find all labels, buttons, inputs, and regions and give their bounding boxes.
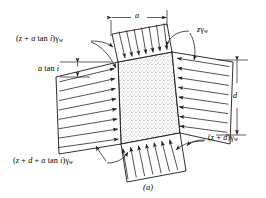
tl-w: w xyxy=(59,37,63,43)
soil-element xyxy=(118,52,180,144)
label-dimension-a-tan-i: a tan i xyxy=(38,64,59,73)
label-top-left-pressure: (z + a tan i)γw xyxy=(16,34,63,43)
left-pressure-band xyxy=(56,62,121,154)
leader-bottom-left-b xyxy=(96,146,106,161)
figure-container: (z + a tan i)γw zγw (z + d + a tan i)γw … xyxy=(0,0,266,198)
label-dimension-d: d xyxy=(233,91,237,100)
pressure-diagram-svg xyxy=(0,0,266,198)
br-plus: + xyxy=(214,133,223,142)
tl-tan: tan xyxy=(35,34,50,43)
atan-tan: tan xyxy=(42,64,57,73)
leader-top-left-a xyxy=(91,41,113,47)
label-dimension-a: a xyxy=(135,11,139,20)
bl-plus2: + xyxy=(32,156,41,165)
label-top-right-pressure: zγw xyxy=(197,25,208,34)
right-pressure-band xyxy=(172,52,233,144)
br-w: w xyxy=(234,136,238,142)
bl-w: w xyxy=(69,159,73,165)
bl-plus1: + xyxy=(19,156,28,165)
tr-w: w xyxy=(204,28,208,34)
bl-tan: tan xyxy=(46,156,61,165)
figure-caption: (a) xyxy=(143,182,153,192)
label-bottom-left-pressure: (z + d + a tan i)γw xyxy=(13,156,73,165)
atan-i: i xyxy=(57,64,59,73)
label-bottom-right-pressure: (z + d)γw xyxy=(208,133,238,142)
tl-plus: + xyxy=(22,34,31,43)
